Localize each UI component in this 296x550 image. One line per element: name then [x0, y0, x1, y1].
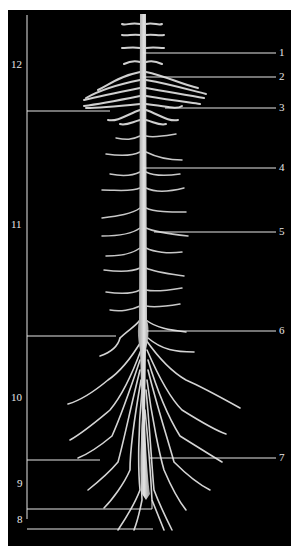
label-9: 9 [17, 478, 23, 489]
label-2: 2 [279, 71, 285, 82]
label-12: 12 [11, 59, 22, 70]
label-5: 5 [279, 226, 285, 237]
spinal-cord-illustration [0, 0, 296, 550]
label-11: 11 [11, 219, 22, 230]
label-10: 10 [11, 392, 22, 403]
label-6: 6 [279, 325, 285, 336]
lumbosacral-nerves [68, 320, 240, 530]
label-3: 3 [279, 102, 285, 113]
label-8: 8 [17, 514, 23, 525]
label-4: 4 [279, 162, 285, 173]
label-1: 1 [279, 47, 285, 58]
label-7: 7 [279, 452, 285, 463]
right-leader-lines [143, 53, 276, 458]
